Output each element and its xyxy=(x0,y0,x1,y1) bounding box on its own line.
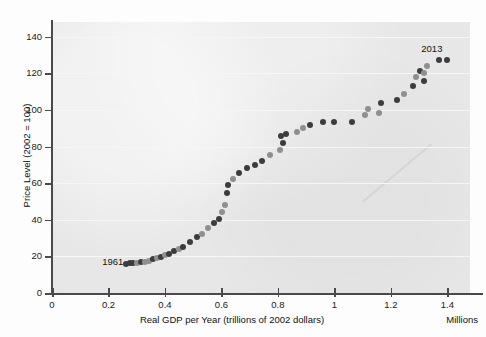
data-point xyxy=(413,74,419,80)
x-tick-0.8 xyxy=(278,288,280,297)
gridline-y-40 xyxy=(52,220,470,221)
data-point xyxy=(362,112,368,118)
x-tick-0.4 xyxy=(165,288,167,297)
plot-area: 19612013 xyxy=(52,22,470,293)
x-axis-unit-label: Millions xyxy=(446,314,478,325)
data-point xyxy=(244,165,250,171)
y-tick-120 xyxy=(45,73,53,75)
annotation-2013: 2013 xyxy=(421,42,442,53)
gridline-y-140 xyxy=(52,37,470,38)
data-point xyxy=(219,209,225,215)
data-point xyxy=(216,216,222,222)
x-tick-label-0.2: 0.2 xyxy=(102,299,115,310)
data-point xyxy=(259,158,265,164)
data-point xyxy=(424,63,430,69)
x-tick-label-0: 0 xyxy=(49,299,54,310)
data-point xyxy=(205,225,211,231)
data-point xyxy=(294,129,300,135)
data-point xyxy=(236,170,242,176)
data-point xyxy=(187,239,193,245)
chart-figure: 19612013 020406080100120140 00.20.40.60.… xyxy=(0,0,486,337)
y-tick-60 xyxy=(45,183,53,185)
x-tick-1.4 xyxy=(447,288,449,297)
y-tick-40 xyxy=(45,220,53,222)
x-tick-label-0.4: 0.4 xyxy=(158,299,171,310)
x-tick-label-0.8: 0.8 xyxy=(271,299,284,310)
data-point xyxy=(394,97,400,103)
x-tick-0.2 xyxy=(108,288,110,297)
x-tick-0.6 xyxy=(221,288,223,297)
y-tick-label-0: 0 xyxy=(14,287,42,298)
data-point xyxy=(180,244,186,250)
data-point xyxy=(436,57,442,63)
x-tick-label-1.2: 1.2 xyxy=(384,299,397,310)
x-tick-label-1: 1 xyxy=(332,299,337,310)
data-point xyxy=(331,119,337,125)
data-point xyxy=(252,162,258,168)
data-point xyxy=(225,182,231,188)
x-tick-label-1.4: 1.4 xyxy=(441,299,454,310)
gridline-y-60 xyxy=(52,183,470,184)
x-tick-0 xyxy=(52,288,54,297)
y-tick-80 xyxy=(45,147,53,149)
data-point xyxy=(320,119,326,125)
y-tick-20 xyxy=(45,256,53,258)
data-point xyxy=(410,83,416,89)
data-point xyxy=(307,122,313,128)
scan-artifact xyxy=(362,143,432,202)
annotation-1961: 1961 xyxy=(102,255,123,266)
x-tick-label-0.6: 0.6 xyxy=(215,299,228,310)
data-point xyxy=(300,125,306,131)
data-point xyxy=(421,70,427,76)
data-point xyxy=(199,231,205,237)
data-point xyxy=(401,91,407,97)
x-tick-1.2 xyxy=(391,288,393,297)
y-tick-140 xyxy=(45,37,53,39)
data-point xyxy=(277,147,283,153)
x-axis-title: Real GDP per Year (trillions of 2002 dol… xyxy=(52,314,412,325)
data-point xyxy=(283,131,289,137)
data-point xyxy=(267,152,273,158)
data-point xyxy=(230,176,236,182)
data-point xyxy=(378,100,384,106)
gridline-y-100 xyxy=(52,110,470,111)
data-point xyxy=(349,119,355,125)
y-axis-title: Price Level (2002 = 100) xyxy=(21,56,32,256)
y-tick-label-140: 140 xyxy=(14,31,42,42)
y-axis-line xyxy=(51,20,53,295)
data-point xyxy=(222,202,228,208)
data-point xyxy=(365,106,371,112)
data-point xyxy=(376,110,382,116)
data-point xyxy=(444,57,450,63)
data-point xyxy=(421,78,427,84)
gridline-y-120 xyxy=(52,73,470,74)
data-point xyxy=(224,190,230,196)
x-axis-line xyxy=(51,293,483,295)
data-point xyxy=(280,140,286,146)
x-tick-1 xyxy=(334,288,336,297)
gridline-y-80 xyxy=(52,147,470,148)
y-tick-100 xyxy=(45,110,53,112)
